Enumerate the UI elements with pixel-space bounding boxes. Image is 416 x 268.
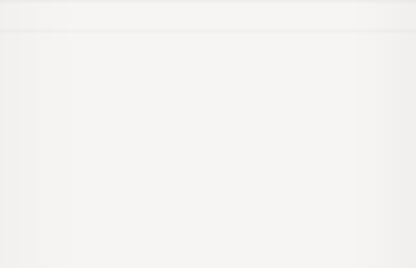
y-tick-label: 10% [0, 209, 42, 219]
legend-label: Northeast [302, 62, 337, 71]
bar-chart: CNN Poll February 15, 2010 70%60%50%40%3… [0, 0, 416, 268]
legend-label: South [302, 96, 323, 105]
legend-swatch-icon [289, 96, 298, 105]
bar: 13% [100, 206, 160, 243]
scan-artifact-icon [243, 115, 244, 124]
legend-item-south: South [289, 92, 347, 109]
legend-item-northeast: Northeast [289, 58, 347, 75]
bar: 31% [220, 154, 280, 243]
y-tick-label: 70% [0, 38, 42, 48]
x-axis-line [50, 243, 398, 245]
chart-title-line-2: February 15, 2010 [0, 21, 416, 34]
y-tick-mark [44, 214, 51, 215]
legend-label: Midwest [302, 79, 331, 88]
y-tick-label: 30% [0, 152, 42, 162]
y-tick-label: 20% [0, 181, 42, 191]
bar-value-label: 28% [280, 170, 340, 181]
scan-speck-icon [402, 69, 404, 71]
bar-value-label: 13% [100, 213, 160, 224]
y-tick-mark [44, 43, 51, 44]
plot-top-border [50, 41, 397, 42]
x-axis-label: Region [50, 247, 397, 259]
y-tick-label: 50% [0, 95, 42, 105]
y-tick-label: 40% [0, 124, 42, 134]
legend-item-midwest: Midwest [289, 75, 347, 92]
y-tick-label: 0% [0, 238, 42, 248]
legend-swatch-icon [289, 79, 298, 88]
legend-item-southwest: Southwest [289, 109, 347, 126]
y-tick-mark [44, 157, 51, 158]
legend-swatch-icon [289, 113, 298, 122]
y-tick-mark [44, 100, 51, 101]
chart-title: CNN Poll February 15, 2010 [0, 8, 416, 34]
legend-label: Southwest [302, 113, 339, 122]
bar-value-label: 31% [220, 161, 280, 172]
bar-value-label: 29% [160, 167, 220, 178]
y-tick-label: 60% [0, 67, 42, 77]
y-tick-mark [44, 129, 51, 130]
legend: NortheastMidwestSouthSouthwest [285, 54, 348, 129]
legend-swatch-icon [289, 62, 298, 71]
y-tick-mark [44, 243, 51, 244]
y-tick-mark [44, 72, 51, 73]
y-tick-mark [44, 186, 51, 187]
chart-title-line-1: CNN Poll [185, 8, 232, 20]
bar: 29% [160, 160, 220, 243]
bar: 28% [280, 163, 340, 243]
